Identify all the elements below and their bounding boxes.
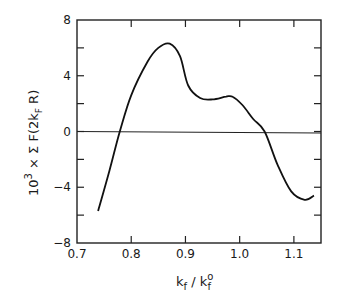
y-tick-label: −8 [53,236,71,250]
x-tick-label: 0.9 [176,247,195,261]
tick-labels: 0.70.80.91.01.1−8−4048 [53,13,303,261]
y-tick-label: 8 [63,13,71,27]
y-axis-label: 103 × Σ F(2kF R) [23,90,44,196]
x-tick-label: 1.0 [230,247,249,261]
chart: 0.70.80.91.01.1−8−4048 kf / kof 103 × Σ … [0,0,340,299]
x-tick-label: 0.8 [122,247,141,261]
y-tick-label: 0 [63,125,71,139]
x-tick-label: 1.1 [284,247,303,261]
x-axis-label: kf / kof [176,271,213,292]
data-curve [98,43,314,211]
zero-reference-line [77,132,321,134]
y-tick-label: −4 [53,180,71,194]
y-tick-label: 4 [63,69,71,83]
